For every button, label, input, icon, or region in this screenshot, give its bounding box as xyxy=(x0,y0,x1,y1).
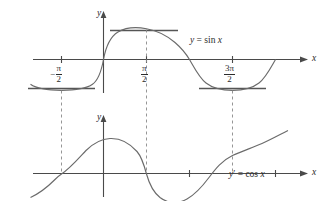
connector-group xyxy=(62,30,233,175)
tick-label-three-half-pi: 3π 2 xyxy=(224,64,235,84)
sine-label-equals: = xyxy=(194,35,204,45)
sine-label-func: sin xyxy=(204,35,215,45)
bottom-x-axis-arrowhead xyxy=(300,171,308,177)
top-y-axis-label: y xyxy=(97,9,101,19)
bottom-x-axis-label: x xyxy=(312,168,316,178)
figure-canvas xyxy=(0,0,323,201)
sine-plot-group xyxy=(28,11,308,93)
bottom-y-axis-label: y xyxy=(97,113,101,123)
tick-label-minus-half-pi: − π 2 xyxy=(50,64,62,84)
sine-curve-label: y = sin x xyxy=(190,36,222,46)
fraction-numerator: π xyxy=(56,64,63,75)
fraction-denominator: 2 xyxy=(224,75,235,85)
fraction-three-half-pi: 3π 2 xyxy=(224,64,235,84)
tick-label-half-pi: π 2 xyxy=(141,64,148,84)
top-x-axis-label: x xyxy=(312,54,316,64)
fraction-minus-half-pi: π 2 xyxy=(56,64,63,84)
minus-sign: − xyxy=(50,70,55,79)
math-figure: y x y = sin x − π 2 π 2 3π 2 y x y′ = co… xyxy=(0,0,323,201)
fraction-numerator: 3π xyxy=(224,64,235,75)
fraction-denominator: 2 xyxy=(56,75,63,85)
cosine-label-variable: x xyxy=(260,169,264,179)
top-y-axis-arrowhead xyxy=(101,11,107,18)
cosine-label-equals: = xyxy=(235,169,245,179)
top-x-axis-arrowhead xyxy=(300,57,308,63)
cosine-label-func: cos xyxy=(245,169,258,179)
fraction-half-pi: π 2 xyxy=(141,64,148,84)
cosine-curve xyxy=(31,131,289,202)
cosine-curve-label: y′ = cos x xyxy=(229,170,265,180)
fraction-numerator: π xyxy=(141,64,148,75)
fraction-denominator: 2 xyxy=(141,75,148,85)
bottom-y-axis-arrowhead xyxy=(101,115,107,122)
cosine-plot-group xyxy=(31,115,309,201)
sine-label-variable: x xyxy=(218,35,222,45)
